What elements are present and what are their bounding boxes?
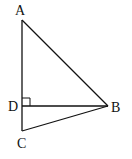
label-a: A xyxy=(15,3,26,18)
segment-ab xyxy=(22,20,108,106)
label-c: C xyxy=(17,136,26,151)
right-angle-marker xyxy=(22,98,30,106)
label-b: B xyxy=(111,100,120,115)
triangle-diagram: A D B C xyxy=(0,0,132,159)
segment-bc xyxy=(22,106,108,131)
label-d: D xyxy=(8,99,18,114)
